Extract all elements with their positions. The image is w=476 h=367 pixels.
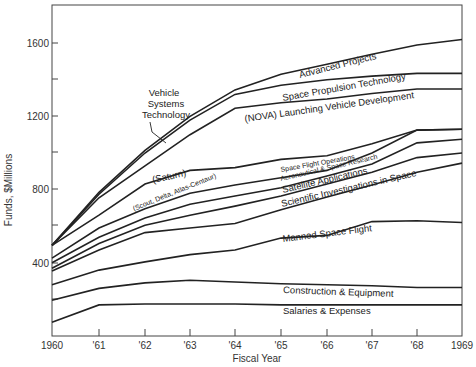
y-tick-800: 800 [32,184,49,195]
y-axis-title: Funds, $Millions [3,154,14,226]
y-tick-1600: 1600 [27,38,50,49]
x-tick-65: '65 [274,340,287,351]
x-tick-1969: 1969 [451,340,474,351]
series-line-0 [52,304,462,322]
chart-canvas: 1600 1200 800 400 Funds, $Millions 1960 … [0,0,476,367]
x-tick-63: '63 [183,340,196,351]
x-tick-61: '61 [92,340,105,351]
x-tick-68: '68 [410,340,423,351]
x-tick-66: '66 [320,340,333,351]
label-advanced-projects: Advanced Projects [298,50,378,80]
y-tick-1200: 1200 [27,111,50,122]
label-manned: Manned Space Flight [282,222,373,244]
label-salaries: Salaries & Expenses [283,305,371,316]
y-tick-400: 400 [32,258,49,269]
x-tick-62: '62 [138,340,151,351]
x-tick-67: '67 [365,340,378,351]
label-vst-line1: Vehicle [149,87,180,98]
label-vst-line3: Technology [142,109,190,120]
x-tick-1960: 1960 [41,340,64,351]
x-tick-64: '64 [228,340,241,351]
series-line-6 [52,129,462,258]
label-saturn: (Saturn) [151,167,187,185]
x-axis-title: Fiscal Year [233,353,283,364]
x-axis [99,329,417,336]
label-vst-line2: Systems [148,98,185,109]
series-line-1 [52,280,462,300]
